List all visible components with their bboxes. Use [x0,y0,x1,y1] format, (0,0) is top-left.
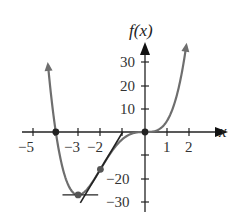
x-tick-label: −5 [18,139,34,155]
curve-arrow-left-icon [45,62,53,71]
x-tick-label: −2 [87,139,103,155]
x-tick-label: 2 [185,139,193,155]
marked-point [75,192,82,199]
y-tick-label: −30 [106,194,129,210]
marked-point [142,129,149,136]
marked-point [97,166,104,173]
x-tick-label: −3 [64,139,80,155]
curve-arrow-right-icon [181,43,189,52]
y-tick-label: 20 [120,78,135,94]
x-axis-label: x [218,122,227,141]
y-axis-label: f(x) [129,21,153,40]
y-tick-label: −20 [106,171,129,187]
x-tick-label: 1 [163,139,171,155]
y-axis-arrow-icon [140,42,150,55]
y-tick-label: 10 [120,101,135,117]
function-graph: −5 −3 −2 1 2 30 20 10 −20 −30 f(x) x [0,0,241,221]
y-tick-label: 30 [120,54,135,70]
marked-point [52,129,59,136]
